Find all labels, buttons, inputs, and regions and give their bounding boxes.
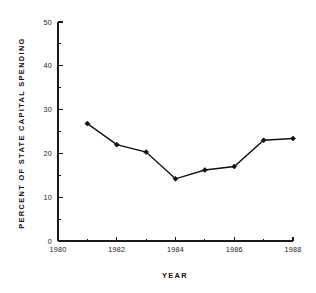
line-chart: 0102030405019801982198419861988 YEAR PER…	[0, 0, 316, 293]
chart-tick-labels: 0102030405019801982198419861988	[44, 18, 302, 254]
x-tick-label: 1988	[285, 245, 302, 254]
y-tick-label: 50	[44, 18, 52, 27]
x-axis-title: YEAR	[162, 271, 188, 280]
x-tick-label: 1984	[167, 245, 184, 254]
data-point-marker	[202, 168, 207, 173]
y-tick-label: 40	[44, 61, 52, 70]
chart-ticks	[58, 22, 293, 241]
y-tick-label: 30	[44, 105, 52, 114]
chart-series	[85, 121, 296, 181]
x-tick-label: 1982	[108, 245, 125, 254]
data-point-marker	[291, 136, 296, 141]
y-tick-label: 10	[44, 193, 52, 202]
x-tick-label: 1986	[226, 245, 243, 254]
x-tick-label: 1980	[50, 245, 67, 254]
chart-axes	[58, 22, 293, 241]
data-line	[87, 124, 293, 179]
y-tick-label: 20	[44, 149, 52, 158]
y-axis-title: PERCENT OF STATE CAPITAL SPENDING	[17, 37, 26, 228]
chart-container: 0102030405019801982198419861988 YEAR PER…	[0, 0, 316, 293]
